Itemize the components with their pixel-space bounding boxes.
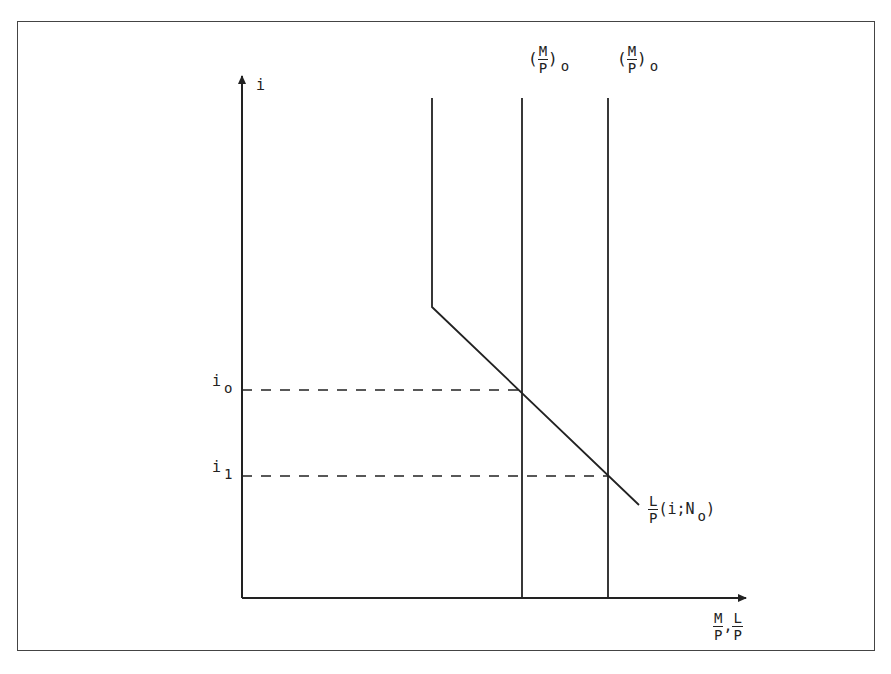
paren-close: ): [706, 500, 715, 518]
fraction: MP: [627, 44, 637, 75]
denominator: P: [628, 60, 636, 75]
denominator: P: [539, 60, 547, 75]
numerator: L: [648, 494, 658, 510]
paren-close: ): [548, 49, 558, 68]
interest-label-i0: io: [212, 374, 232, 389]
fraction-l-p: LP: [732, 611, 742, 642]
plot-area: [0, 0, 891, 674]
x-axis-label: MP,LP: [713, 611, 743, 642]
denominator: P: [649, 510, 657, 525]
interest-symbol: i: [212, 458, 221, 476]
y-axis-label: i: [256, 78, 265, 93]
numerator: M: [713, 611, 723, 627]
paren-close: ): [637, 49, 647, 68]
function-args: (i;N: [658, 500, 694, 518]
interest-symbol: i: [212, 372, 221, 390]
money-supply-label-2: (MP)o: [617, 44, 658, 75]
interest-label-i1: i1: [212, 460, 232, 475]
paren-open: (: [528, 49, 538, 68]
interest-subscript: o: [224, 380, 232, 396]
numerator: L: [732, 611, 742, 627]
numerator: M: [627, 44, 637, 60]
denominator: P: [714, 627, 722, 642]
fraction: MP: [538, 44, 548, 75]
subscript: o: [561, 58, 569, 74]
interest-subscript: 1: [224, 466, 232, 482]
fraction: LP: [648, 494, 658, 525]
paren-open: (: [617, 49, 627, 68]
fraction-m-p: MP: [713, 611, 723, 642]
separator: ,: [723, 617, 732, 635]
denominator: P: [733, 627, 741, 642]
subscript: o: [698, 508, 706, 524]
subscript: o: [650, 58, 658, 74]
money-supply-label-1: (MP)o: [528, 44, 569, 75]
money-demand-label: LP(i;No): [648, 494, 715, 525]
numerator: M: [538, 44, 548, 60]
